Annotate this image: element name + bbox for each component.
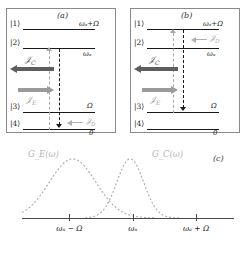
- energy-label-2-b: ωₐ: [207, 50, 215, 58]
- ket-label-3-b: |3⟩: [134, 102, 144, 111]
- flux-label-je-sub-b: E: [156, 99, 160, 106]
- panel-c-tag: (c): [213, 154, 224, 163]
- panel-b-level-scheme: (b) |1⟩ ωₐ+Ω |2⟩ ωₐ |3⟩ Ω |4⟩ 0 𝒥D: [130, 8, 240, 133]
- energy-label-2-a: ωₐ: [83, 50, 91, 58]
- axis-tick-label-wa-plus-omega: ωₐ + Ω: [183, 224, 209, 233]
- transition-gray-up-arrowhead-b: [170, 29, 176, 33]
- ket-label-4-a: |4⟩: [10, 119, 20, 128]
- flux-label-jd-a: 𝒥D: [86, 116, 95, 127]
- flux-label-jd-sub-b: D: [215, 38, 219, 44]
- frequency-axis: [22, 218, 234, 219]
- flux-arrow-je-b: [142, 87, 178, 93]
- transition-gray-up-arrowhead-a: [46, 47, 52, 51]
- ket-label-1-b: |1⟩: [134, 19, 144, 28]
- flux-arrow-jd-a: [67, 120, 83, 125]
- ket-label-2-a: |2⟩: [10, 38, 20, 47]
- energy-label-4-a: 0: [89, 129, 93, 137]
- ket-label-2-b: |2⟩: [134, 38, 144, 47]
- flux-label-jc-a: 𝒥C: [25, 55, 36, 66]
- energy-label-1-b: ωₐ+Ω: [203, 20, 223, 28]
- transition-black-down-a: [59, 49, 60, 125]
- level-line-1-a: [23, 29, 95, 30]
- figure-root: (a) |1⟩ ωₐ+Ω |2⟩ ωₐ |3⟩ Ω |4⟩ 0 𝒥C: [0, 0, 247, 253]
- flux-label-je-b: 𝒥E: [150, 95, 160, 106]
- energy-label-1-a: ωₐ+Ω: [79, 20, 99, 28]
- level-line-4-b: [147, 129, 219, 130]
- axis-tick-wa: [133, 214, 134, 221]
- axis-tick-wa-plus-omega: [196, 214, 197, 221]
- ket-label-4-b: |4⟩: [134, 119, 144, 128]
- axis-tick-label-wa-minus-omega: ωₐ − Ω: [56, 224, 82, 233]
- curve-GE: [22, 159, 155, 218]
- curve-label-GE: G_E(ω): [28, 149, 59, 159]
- ket-label-1-a: |1⟩: [10, 19, 20, 28]
- flux-label-jd-sub-a: D: [91, 121, 95, 127]
- ket-label-3-a: |3⟩: [10, 102, 20, 111]
- level-line-3-b: [147, 112, 219, 113]
- level-line-4-a: [23, 129, 95, 130]
- spectral-density-plot: ωₐ − Ω ωₐ ωₐ + Ω G_E(ω) G_C(ω) (c): [0, 140, 247, 253]
- flux-label-jc-sub-a: C: [31, 59, 36, 66]
- transition-black-down-b: [183, 30, 184, 108]
- energy-label-3-a: Ω: [87, 102, 93, 110]
- flux-arrow-jd-b: [191, 37, 207, 42]
- energy-label-4-b: 0: [213, 129, 217, 137]
- panel-a-tag: (a): [57, 11, 68, 20]
- axis-tick-wa-minus-omega: [69, 214, 70, 221]
- energy-label-3-b: Ω: [211, 102, 217, 110]
- flux-label-jc-b: 𝒥C: [149, 55, 160, 66]
- flux-label-jd-b: 𝒥D: [210, 33, 219, 44]
- flux-arrow-je-a: [18, 87, 54, 93]
- curve-label-GC: G_C(ω): [152, 149, 183, 159]
- flux-arrow-jc-b: [134, 66, 178, 72]
- flux-label-je-sub-a: E: [32, 99, 36, 106]
- panel-b-tag: (b): [181, 11, 192, 20]
- axis-tick-label-wa: ωₐ: [128, 224, 137, 233]
- transition-black-down-arrowhead-b: [180, 107, 186, 111]
- transition-gray-up-b: [173, 33, 174, 113]
- flux-label-je-a: 𝒥E: [26, 95, 36, 106]
- flux-label-jc-sub-b: C: [155, 59, 160, 66]
- flux-arrow-jc-a: [10, 66, 54, 72]
- transition-black-down-arrowhead-a: [56, 124, 62, 128]
- panel-a-level-scheme: (a) |1⟩ ωₐ+Ω |2⟩ ωₐ |3⟩ Ω |4⟩ 0 𝒥C: [6, 8, 116, 133]
